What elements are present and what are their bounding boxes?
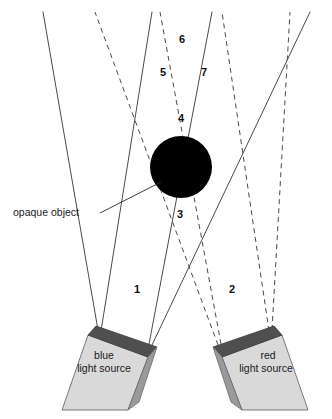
- blue-ray-tangent-left: [101, 12, 152, 331]
- region-label-1: 1: [134, 284, 140, 295]
- opaque-object-leader-line: [100, 182, 161, 213]
- red-ray-outer-right: [272, 12, 290, 330]
- region-label-4: 4: [178, 113, 184, 124]
- region-label-6: 6: [179, 34, 185, 45]
- region-label-2: 2: [229, 284, 235, 295]
- figure-canvas: 1 2 3 4 5 6 7 opaque object blue light s…: [0, 0, 332, 419]
- blue-source-label-line1: blue: [71, 349, 137, 362]
- red-source-label-line2: light source: [224, 362, 308, 375]
- region-label-5: 5: [160, 67, 166, 78]
- opaque-object-label: opaque object: [13, 206, 79, 218]
- red-source-label-line1: red: [235, 349, 301, 362]
- region-label-7: 7: [201, 67, 207, 78]
- opaque-object-circle: [150, 136, 212, 198]
- blue-source-label-line2: light source: [62, 362, 146, 375]
- blue-ray-outer-left: [43, 12, 98, 330]
- region-label-3: 3: [177, 209, 183, 220]
